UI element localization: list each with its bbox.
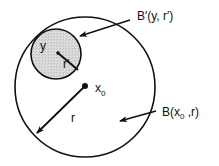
inner-ball (31, 29, 81, 79)
outer-ball-label-main: B(x (162, 105, 180, 119)
inner-center-dot (56, 51, 60, 55)
outer-ball-label-tail: ,r) (184, 105, 199, 119)
outer-ball-label: B(x0 ,r) (162, 105, 199, 121)
ball-diagram: B′(y, r′) y r′ x0 r B(x0 ,r) (0, 0, 219, 166)
outer-radius-arrow (37, 86, 85, 133)
outer-radius-label: r (71, 111, 75, 125)
inner-radius-label: r′ (63, 57, 70, 71)
outer-center-label-sub: 0 (101, 89, 106, 98)
inner-ball-label: B′(y, r′) (137, 9, 173, 23)
outer-ball-pointer-arrow (120, 111, 156, 121)
inner-center-label: y (40, 39, 46, 53)
outer-center-label: x0 (95, 81, 106, 98)
